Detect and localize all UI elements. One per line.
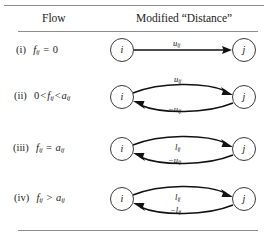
node-label: j <box>243 45 246 56</box>
arc-label-forward-row-iv: lij <box>175 192 180 202</box>
node-source-row-i: i <box>110 38 134 62</box>
arc-label-backward-row-iv: −lij <box>170 205 181 215</box>
arc-layer <box>0 0 268 244</box>
node-label: i <box>121 194 124 205</box>
arc-forward-row-ii <box>133 84 233 95</box>
arc-backward-row-iii <box>133 153 233 164</box>
node-source-row-iv: i <box>110 187 134 211</box>
node-label: i <box>121 144 124 155</box>
arc-forward-row-iv <box>133 186 233 197</box>
node-source-row-iii: i <box>110 137 134 161</box>
flow-distance-figure: Flow Modified “Distance” (i) fij = 0 (ii… <box>0 0 268 244</box>
arc-backward-row-iv <box>133 203 233 214</box>
node-target-row-i: j <box>232 38 256 62</box>
arc-label-forward-row-ii: uij <box>174 74 181 84</box>
node-target-row-iii: j <box>232 137 256 161</box>
node-label: j <box>243 144 246 155</box>
arc-label-backward-row-ii: −uij <box>168 104 181 114</box>
node-target-row-iv: j <box>232 187 256 211</box>
node-label: j <box>243 92 246 103</box>
arc-forward-row-i <box>134 46 232 54</box>
arc-forward-row-iii <box>133 136 233 147</box>
arc-label-backward-row-iii: −uij <box>168 155 181 165</box>
node-label: j <box>243 194 246 205</box>
node-label: i <box>121 45 124 56</box>
arc-label-forward-row-i: uij <box>173 38 180 48</box>
node-target-row-ii: j <box>232 85 256 109</box>
node-source-row-ii: i <box>110 85 134 109</box>
arc-label-forward-row-iii: lij <box>175 142 180 152</box>
node-label: i <box>121 92 124 103</box>
arc-backward-row-ii <box>133 101 233 112</box>
